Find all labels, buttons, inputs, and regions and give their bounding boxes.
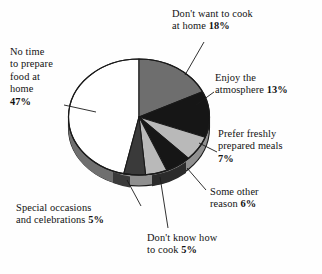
label-line-2: to cook 5% (147, 244, 217, 256)
label-percent: 13% (267, 84, 288, 95)
pie-chart-figure: Don't want to cook at home 18% Enjoy the… (0, 0, 322, 274)
label-text: reason (210, 198, 240, 209)
slice-label-dont-want-to-cook: Don't want to cook at home 18% (172, 8, 253, 33)
label-percent: 47% (10, 96, 53, 108)
label-percent: 6% (240, 198, 256, 209)
label-line-1: No time (10, 46, 53, 58)
label-percent: 7% (218, 153, 283, 165)
slice-label-special-occasions: Special occasions and celebrations 5% (16, 202, 104, 227)
leader-dont-know (160, 177, 168, 228)
slice-label-some-other-reason: Some other reason 6% (210, 186, 259, 211)
label-text: to cook (147, 244, 181, 255)
label-line-1: Don't want to cook (172, 8, 253, 20)
label-line-1: Some other (210, 186, 259, 198)
label-text: at home (172, 20, 209, 31)
pie-slices (69, 59, 210, 175)
label-text: atmosphere (215, 84, 267, 95)
label-line-1: Enjoy the (215, 72, 288, 84)
label-line-4: home (10, 83, 53, 95)
slice-label-no-time-to-prepare-food: No time to prepare food at home 47% (10, 46, 53, 108)
label-line-1: Special occasions (16, 202, 104, 214)
label-percent: 5% (181, 244, 197, 255)
label-line-2: atmosphere 13% (215, 84, 288, 96)
label-line-2: to prepare (10, 58, 53, 70)
label-text: and celebrations (16, 214, 88, 225)
label-line-1: Don't know how (147, 232, 217, 244)
slice-label-enjoy-the-atmosphere: Enjoy the atmosphere 13% (215, 72, 288, 97)
slice-label-dont-know-how-to-cook: Don't know how to cook 5% (147, 232, 217, 257)
label-line-2: prepared meals (218, 140, 283, 152)
leader-some-other (187, 168, 206, 190)
leader-dont-want (185, 42, 204, 75)
slice-label-prefer-freshly-prepared-meals: Prefer freshly prepared meals 7% (218, 128, 283, 165)
label-percent: 18% (209, 20, 230, 31)
label-percent: 5% (88, 214, 104, 225)
label-line-2: and celebrations 5% (16, 214, 104, 226)
label-line-1: Prefer freshly (218, 128, 283, 140)
label-line-2: reason 6% (210, 198, 259, 210)
label-line-2: at home 18% (172, 20, 253, 32)
label-line-3: food at (10, 71, 53, 83)
